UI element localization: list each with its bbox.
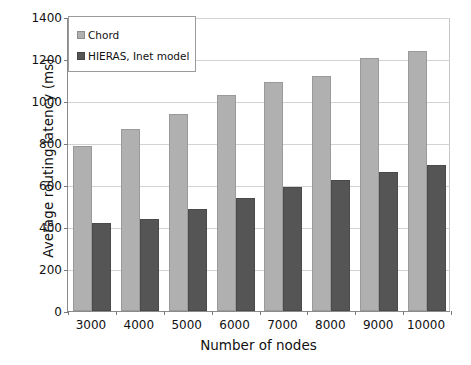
bar-hieras-6000 bbox=[236, 198, 255, 311]
y-tick-mark bbox=[64, 228, 68, 229]
bar-chart-figure: Average routing latency (ms) 02004006008… bbox=[0, 0, 471, 365]
y-tick-mark bbox=[64, 186, 68, 187]
y-axis-tick-labels: 0200400600800100012001400 bbox=[18, 0, 62, 365]
plot-right-frame bbox=[449, 18, 450, 311]
y-tick-label: 1400 bbox=[20, 11, 62, 25]
bar-chord-5000 bbox=[169, 114, 188, 311]
y-tick-label: 800 bbox=[20, 137, 62, 151]
bar-hieras-5000 bbox=[188, 209, 207, 311]
bar-hieras-7000 bbox=[283, 187, 302, 311]
chart-legend: Chord HIERAS, Inet model bbox=[68, 16, 196, 72]
legend-label-chord: Chord bbox=[88, 29, 119, 41]
x-tick-mark bbox=[260, 311, 261, 315]
x-tick-mark bbox=[451, 311, 452, 315]
bar-hieras-10000 bbox=[427, 165, 446, 311]
bar-hieras-9000 bbox=[379, 172, 398, 311]
bar-chord-3000 bbox=[73, 146, 92, 311]
x-tick-label: 10000 bbox=[396, 318, 456, 332]
x-tick-mark bbox=[164, 311, 165, 315]
chord-swatch-icon bbox=[77, 31, 85, 39]
bar-chord-9000 bbox=[360, 58, 379, 311]
legend-label-hieras: HIERAS, Inet model bbox=[88, 50, 189, 62]
x-tick-mark bbox=[355, 311, 356, 315]
legend-item-chord: Chord bbox=[77, 24, 195, 45]
bar-chord-8000 bbox=[312, 76, 331, 311]
x-tick-mark bbox=[116, 311, 117, 315]
bar-chord-6000 bbox=[217, 95, 236, 311]
bar-chord-4000 bbox=[121, 129, 140, 311]
bar-hieras-4000 bbox=[140, 219, 159, 311]
x-tick-mark bbox=[212, 311, 213, 315]
x-tick-mark bbox=[403, 311, 404, 315]
bar-chord-10000 bbox=[408, 51, 427, 311]
y-tick-mark bbox=[64, 270, 68, 271]
y-tick-label: 400 bbox=[20, 221, 62, 235]
bar-hieras-8000 bbox=[331, 180, 350, 311]
x-tick-mark bbox=[68, 311, 69, 315]
x-tick-mark bbox=[307, 311, 308, 315]
gridline bbox=[68, 102, 450, 103]
y-tick-label: 200 bbox=[20, 263, 62, 277]
legend-item-hieras: HIERAS, Inet model bbox=[77, 45, 195, 66]
y-tick-mark bbox=[64, 144, 68, 145]
bar-chord-7000 bbox=[264, 82, 283, 311]
y-tick-label: 600 bbox=[20, 179, 62, 193]
bar-hieras-3000 bbox=[92, 223, 111, 311]
y-tick-label: 1200 bbox=[20, 53, 62, 67]
y-tick-label: 1000 bbox=[20, 95, 62, 109]
hieras-swatch-icon bbox=[77, 52, 85, 60]
y-tick-label: 0 bbox=[20, 305, 62, 319]
y-tick-mark bbox=[64, 102, 68, 103]
x-axis-title: Number of nodes bbox=[67, 337, 450, 353]
